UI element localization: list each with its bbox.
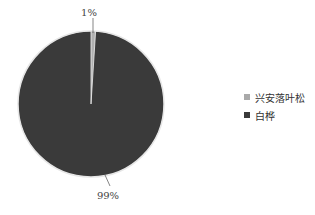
legend-label: 兴安落叶松 xyxy=(255,90,305,105)
legend: 兴安落叶松 白桦 xyxy=(244,88,305,124)
data-label-1pct: 1% xyxy=(81,7,97,18)
legend-swatch-icon xyxy=(244,94,250,100)
data-label-99pct: 99% xyxy=(97,190,119,201)
legend-swatch-icon xyxy=(244,112,250,118)
leader-line-99pct xyxy=(105,175,110,186)
legend-item-baihua: 白桦 xyxy=(244,106,305,124)
legend-item-xinganluoyesong: 兴安落叶松 xyxy=(244,88,305,106)
legend-label: 白桦 xyxy=(255,108,275,123)
